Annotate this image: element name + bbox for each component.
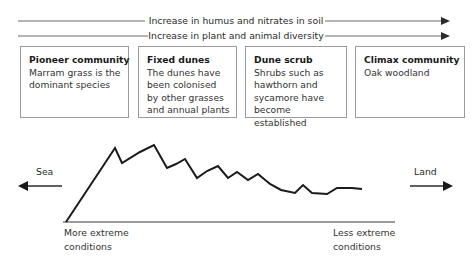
- less-extreme-conditions-line2: conditions: [333, 240, 381, 253]
- sea-label: Sea: [36, 166, 53, 177]
- more-extreme-conditions-line1: More extreme: [64, 226, 129, 239]
- land-arrow-icon: [410, 181, 453, 191]
- dune-succession-diagram: Increase in humus and nitrates in soil I…: [0, 0, 472, 265]
- less-extreme-conditions-line1: Less extreme: [333, 226, 395, 239]
- more-extreme-conditions-line2: conditions: [64, 240, 112, 253]
- land-label: Land: [414, 166, 437, 177]
- sea-arrow-icon: [18, 181, 62, 191]
- dune-profile-line: [66, 145, 362, 222]
